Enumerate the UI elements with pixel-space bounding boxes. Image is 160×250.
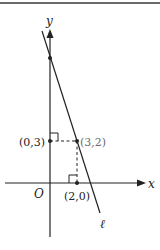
point-label-2-0: (2,0) — [64, 190, 90, 203]
point-0-3 — [48, 139, 52, 143]
point-3-2 — [75, 139, 79, 143]
x-axis-arrow-icon — [137, 180, 146, 187]
y-intercept-point — [48, 56, 52, 60]
point-2-0 — [75, 181, 79, 185]
y-axis-arrow-icon — [47, 29, 54, 38]
x-axis-label: x — [148, 177, 155, 191]
point-label-0-3: (0,3) — [19, 136, 45, 149]
point-label-3-2: (3,2) — [80, 136, 106, 149]
origin-label: O — [34, 187, 44, 201]
diagram-frame: y x O (0,3) (3,2) (2,0) ℓ — [0, 0, 160, 250]
y-axis-label: y — [45, 14, 53, 28]
coordinate-diagram: y x O (0,3) (3,2) (2,0) ℓ — [0, 0, 160, 250]
line-l-label: ℓ — [100, 217, 105, 231]
